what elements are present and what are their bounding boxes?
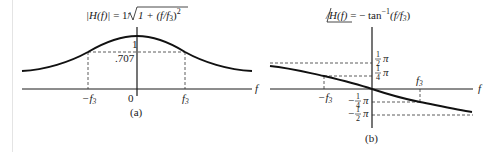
panel-a-x-axis-label: f bbox=[255, 82, 260, 94]
page-margin-rule bbox=[12, 0, 13, 152]
panel-a-y-tick-1: 1 bbox=[132, 38, 138, 50]
panel-b-y-tick-quarter-pi: 1 4 π bbox=[375, 64, 389, 82]
svg-text:1: 1 bbox=[356, 92, 360, 101]
panel-a-caption: (a) bbox=[130, 106, 143, 119]
panel-a-magnitude-plot: |H(f)| = 1/ 1 + (f/f3)2 1 .707 −f3 0 f bbox=[22, 7, 252, 119]
panel-b-caption: (b) bbox=[365, 132, 378, 145]
svg-text:1: 1 bbox=[376, 50, 380, 59]
panel-a-x-tick-zero: 0 bbox=[128, 92, 134, 104]
svg-text:1: 1 bbox=[356, 105, 360, 114]
svg-text:4: 4 bbox=[376, 73, 380, 82]
svg-text:π: π bbox=[383, 52, 389, 64]
svg-text:−: − bbox=[348, 94, 354, 106]
panel-a-x-tick-neg-f3: −f3 bbox=[82, 92, 96, 106]
svg-text:2: 2 bbox=[356, 114, 360, 123]
panel-b-y-tick-neg-half-pi: − 1 2 π bbox=[348, 105, 369, 123]
panel-b-x-tick-pos-f3: f3 bbox=[416, 74, 423, 88]
svg-text:−: − bbox=[348, 107, 354, 119]
panel-a-y-tick-707: .707 bbox=[115, 52, 135, 64]
svg-text:π: π bbox=[383, 66, 389, 78]
panel-b-x-axis-label: f bbox=[478, 82, 483, 94]
panel-b-phase-plot: f /H(f) = − tan−1(f/f3) 1 bbox=[255, 7, 483, 145]
panel-a-title: |H(f)| = 1/ bbox=[86, 9, 132, 22]
panel-b-title: /H(f) = − tan−1(f/f3) bbox=[325, 7, 411, 23]
svg-text:1: 1 bbox=[376, 64, 380, 73]
panel-a-x-tick-pos-f3: f3 bbox=[182, 92, 189, 106]
figure-canvas: |H(f)| = 1/ 1 + (f/f3)2 1 .707 −f3 0 f bbox=[0, 0, 499, 152]
panel-b-x-tick-neg-f3: −f3 bbox=[318, 91, 332, 105]
svg-text:π: π bbox=[363, 94, 369, 106]
panel-a-title-radicand: 1 + (f/f3)2 bbox=[138, 7, 181, 23]
svg-text:π: π bbox=[363, 107, 369, 119]
figure: |H(f)| = 1/ 1 + (f/f3)2 1 .707 −f3 0 f bbox=[0, 0, 499, 152]
